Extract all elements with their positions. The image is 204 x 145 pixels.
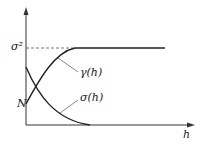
x-axis-label: h — [183, 128, 190, 141]
x-axis-arrow-icon — [187, 123, 195, 128]
sigma-label: σ(h) — [80, 91, 103, 104]
sill-label: σ² — [11, 40, 23, 53]
y-axis-arrow-icon — [24, 7, 29, 15]
nugget-label: N — [17, 97, 27, 110]
gamma-leader — [58, 58, 78, 72]
gamma-label: γ(h) — [80, 66, 102, 79]
chart: σ² N γ(h) σ(h) h — [0, 0, 204, 145]
sigma-leader — [60, 100, 78, 113]
